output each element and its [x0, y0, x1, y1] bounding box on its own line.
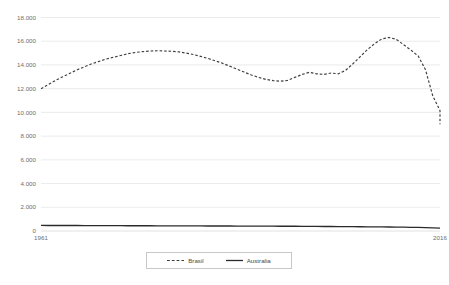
y-tick-label: 10.000 — [17, 109, 36, 116]
y-tick-label: 2.000 — [21, 203, 37, 210]
x-tick-label: 1961 — [34, 234, 48, 241]
legend-dashed-line-icon — [167, 258, 184, 263]
y-tick-label: 14.000 — [17, 61, 36, 68]
y-tick-label: 6.000 — [21, 156, 37, 163]
y-tick-label: 8.000 — [21, 132, 37, 139]
y-axis-tick-labels: 18.00016.00014.00012.00010.0008.0006.000… — [17, 14, 36, 235]
x-tick-label: 2016 — [433, 234, 447, 241]
legend-item-australia: Australia — [226, 257, 271, 264]
gridlines-group — [41, 18, 440, 232]
legend-solid-line-icon — [226, 258, 243, 263]
chart-plot-area: 18.00016.00014.00012.00010.0008.0006.000… — [0, 0, 449, 285]
legend-label-brasil: Brasil — [188, 257, 203, 264]
line-chart-figure: 18.00016.00014.00012.00010.0008.0006.000… — [0, 0, 449, 285]
y-tick-label: 4.000 — [21, 180, 37, 187]
series-line-australia — [41, 225, 440, 228]
series-line-brasil — [41, 37, 440, 124]
legend-label-australia: Australia — [247, 257, 271, 264]
legend-item-brasil: Brasil — [167, 257, 203, 264]
y-tick-label: 16.000 — [17, 37, 36, 44]
y-tick-label: 12.000 — [17, 85, 36, 92]
x-axis-tick-labels: 19612016 — [34, 234, 447, 241]
y-tick-label: 18.000 — [17, 14, 36, 21]
chart-legend: Brasil Australia — [146, 252, 292, 269]
